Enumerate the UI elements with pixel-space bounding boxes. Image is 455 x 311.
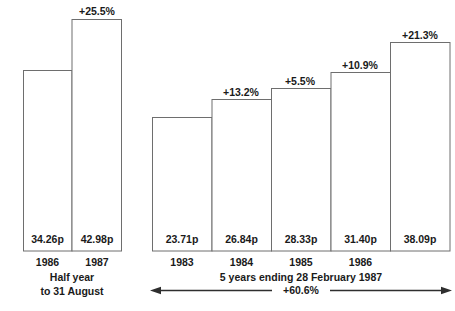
span-arrow-label: +60.6%	[279, 284, 323, 296]
year-label-left-1986: 1986	[36, 256, 59, 268]
year-label-right-1986: 1986	[349, 256, 372, 268]
bar-left-1987	[72, 20, 122, 252]
value-label-right-1987: 38.09p	[404, 233, 437, 245]
bar-right-1987	[391, 43, 451, 252]
growth-label-left-1987: +25.5%	[79, 5, 115, 17]
value-label-left-1986: 34.26p	[31, 233, 64, 245]
bar-right-1983	[153, 118, 213, 252]
growth-label-right-1986: +10.9%	[342, 59, 378, 71]
left-group-bars	[24, 20, 122, 252]
value-label-right-1986: 31.40p	[344, 233, 377, 245]
bar-right-1984	[212, 100, 272, 252]
value-label-right-1985: 28.33p	[285, 233, 318, 245]
left-group-caption-line2: to 31 August	[40, 285, 103, 297]
right-group-bars	[153, 43, 451, 252]
bar-chart: +25.5% 34.26p 42.98p 1986 1987 Half year…	[0, 0, 455, 311]
year-label-right-1983: 1983	[170, 256, 193, 268]
arrow-head-right	[441, 287, 452, 294]
arrow-head-left	[150, 287, 161, 294]
growth-label-right-1984: +13.2%	[223, 86, 259, 98]
bar-right-1986	[331, 73, 391, 252]
value-label-left-1987: 42.98p	[81, 233, 114, 245]
right-group-caption: 5 years ending 28 February 1987	[220, 271, 382, 283]
growth-label-right-1987: +21.3%	[402, 29, 438, 41]
growth-label-right-1985: +5.5%	[285, 75, 315, 87]
value-label-right-1984: 26.84p	[225, 233, 258, 245]
chart-vector-layer	[0, 0, 455, 311]
bar-left-1986	[24, 71, 73, 252]
year-label-right-1985: 1985	[289, 256, 312, 268]
year-label-right-1984: 1984	[230, 256, 253, 268]
value-label-right-1983: 23.71p	[166, 233, 199, 245]
year-label-left-1987: 1987	[85, 256, 108, 268]
left-group-caption-line1: Half year	[50, 271, 94, 283]
bar-right-1985	[272, 89, 332, 252]
